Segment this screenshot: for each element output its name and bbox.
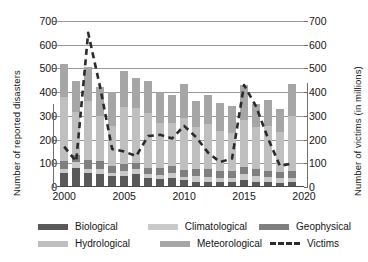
legend-item-biological[interactable]: Biological <box>38 222 118 232</box>
x-tick-label: 2005 <box>112 190 135 202</box>
y-axis-title-right: Number of victims (in millions) <box>352 66 363 196</box>
legend-item-hydrological[interactable]: Hydrological <box>38 239 130 249</box>
legend-item-climatological[interactable]: Climatological <box>148 222 247 232</box>
line-swatch-victims <box>270 242 300 245</box>
color-swatch-climatological <box>148 224 178 230</box>
legend-label: Geophysical <box>296 222 351 232</box>
victims-line-path <box>64 33 292 166</box>
y-axis-title-left: Number of reported disasters <box>11 70 22 196</box>
legend-label: Victims <box>307 239 339 249</box>
y-tick-label-right: 700 <box>309 16 327 27</box>
y-tick-label-right: 100 <box>309 158 327 169</box>
legend-item-geophysical[interactable]: Geophysical <box>259 222 351 232</box>
legend-label: Climatological <box>185 222 247 232</box>
legend-item-meteorological[interactable]: Meteorological <box>160 239 262 249</box>
y-tick-label-right: 600 <box>309 40 327 51</box>
x-tick-label: 2000 <box>53 190 76 202</box>
legend-row: BiologicalClimatologicalGeophysical <box>0 218 368 235</box>
color-swatch-geophysical <box>259 224 289 230</box>
legend-label: Biological <box>75 222 118 232</box>
chart-figure: Number of reported disasters Number of v… <box>0 0 368 262</box>
legend-row: HydrologicalMeteorologicalVictims <box>0 235 368 252</box>
legend-item-victims[interactable]: Victims <box>270 239 339 249</box>
chart-legend: BiologicalClimatologicalGeophysicalHydro… <box>0 218 368 252</box>
right-axis-spine <box>307 83 308 188</box>
tick-mark <box>304 45 308 46</box>
color-swatch-biological <box>38 224 68 230</box>
x-tick-label: 2020 <box>292 190 315 202</box>
x-tick-label: 2010 <box>172 190 195 202</box>
legend-label: Meteorological <box>197 239 262 249</box>
tick-mark <box>304 21 308 22</box>
color-swatch-meteorological <box>160 241 190 247</box>
legend-label: Hydrological <box>75 239 130 249</box>
plot-area <box>57 21 304 187</box>
left-axis-spine <box>53 104 54 188</box>
y-tick-label-right: 300 <box>309 111 327 122</box>
y-tick-label-right: 200 <box>309 135 327 146</box>
x-tick-label: 2015 <box>232 190 255 202</box>
y-tick-label-right: 400 <box>309 87 327 98</box>
tick-mark <box>304 68 308 69</box>
color-swatch-hydrological <box>38 241 68 247</box>
y-tick-label-right: 500 <box>309 63 327 74</box>
victims-line-series <box>57 21 304 187</box>
x-axis-line <box>57 186 304 187</box>
